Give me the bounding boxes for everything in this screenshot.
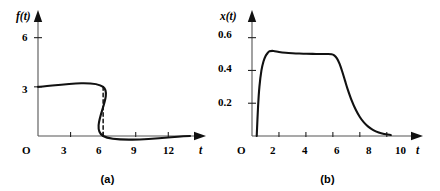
- series-f(t): [38, 83, 190, 139]
- chart-b-y-axis-label: x(t): [220, 11, 237, 23]
- chart-a-x-tick-9: 9: [131, 145, 137, 156]
- chart-b-x-tick-8: 8: [366, 145, 372, 156]
- chart-a-canvas: [0, 0, 215, 191]
- chart-a-x-tick-6: 6: [96, 145, 102, 156]
- x-axis-arrowhead: [411, 132, 423, 140]
- x-axis-arrowhead: [194, 132, 206, 140]
- chart-panel-b: x(t) 0.6 0.4 0.2 O 2 4 6 8 10 t (b): [215, 0, 440, 191]
- chart-b-caption: (b): [215, 173, 440, 185]
- chart-panel-a: f(t) 6 3 O 3 6 9 12 t (a): [0, 0, 215, 191]
- chart-b-x-tick-4: 4: [302, 145, 308, 156]
- chart-a-y-axis-label: f(t): [16, 11, 31, 23]
- figure-container: f(t) 6 3 O 3 6 9 12 t (a) x(t) 0.6 0.4 0…: [0, 0, 440, 191]
- y-axis-arrowhead: [34, 10, 42, 22]
- series-x(t): [257, 51, 391, 136]
- chart-a-caption: (a): [0, 173, 215, 185]
- chart-a-x-axis-label: t: [199, 145, 202, 157]
- chart-b-y-tick-04: 0.4: [218, 63, 232, 74]
- chart-a-y-tick-3: 3: [22, 84, 28, 95]
- chart-b-origin-label: O: [237, 145, 246, 156]
- chart-a-x-tick-3: 3: [61, 145, 67, 156]
- chart-b-x-tick-10: 10: [395, 145, 406, 156]
- chart-b-x-axis-label: t: [416, 145, 419, 157]
- chart-a-x-tick-12: 12: [163, 145, 174, 156]
- chart-b-x-tick-2: 2: [270, 145, 276, 156]
- y-axis-arrowhead: [248, 10, 256, 22]
- chart-b-canvas: [215, 0, 440, 191]
- chart-b-x-tick-6: 6: [334, 145, 340, 156]
- chart-b-y-tick-06: 0.6: [218, 29, 232, 40]
- chart-a-y-tick-6: 6: [22, 32, 28, 43]
- chart-a-origin-label: O: [22, 145, 31, 156]
- chart-b-y-tick-02: 0.2: [218, 97, 232, 108]
